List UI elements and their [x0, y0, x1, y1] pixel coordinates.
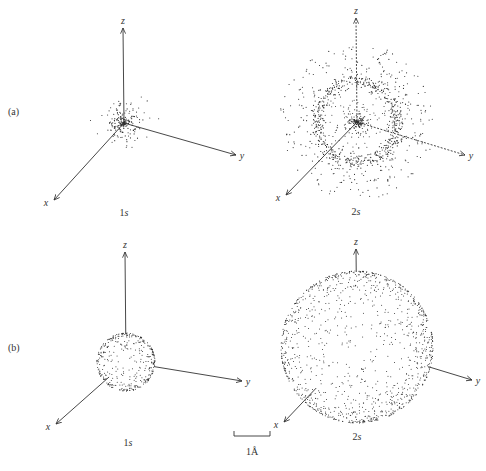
y-axis-label: y — [245, 376, 251, 387]
panel-a-2s: zyx2s — [275, 5, 474, 217]
scale-bar-line — [234, 431, 270, 436]
z-axis-label: z — [353, 236, 358, 247]
panel-a-1s: zyx1s — [43, 15, 245, 218]
orbital-caption: 1s — [124, 437, 133, 448]
panel-b-1s: zyx1s — [45, 239, 251, 448]
scale-bar-label: 1Å — [246, 446, 259, 457]
x-axis-label: x — [273, 419, 279, 430]
scale-bar: 1Å — [234, 431, 270, 457]
x-axis-label: x — [43, 197, 49, 208]
z-axis-arrow — [356, 18, 357, 122]
axes: zyx — [275, 5, 474, 203]
y-axis-label: y — [468, 150, 474, 161]
panel-b-2s: zyx2s — [273, 236, 481, 442]
electron-dots — [97, 333, 156, 392]
orbital-figure: (a) (b) zyx1s zyx2s zyx1s zyx2s 1Å — [0, 0, 486, 471]
electron-dots — [90, 97, 159, 148]
x-axis-label: x — [275, 192, 281, 203]
x-axis-arrow — [284, 388, 316, 422]
y-axis-arrow — [428, 367, 472, 380]
orbital-caption: 2s — [352, 206, 361, 217]
z-axis-label: z — [122, 239, 127, 250]
x-axis-arrow — [54, 123, 124, 200]
y-axis-arrow — [154, 367, 242, 381]
x-axis-arrow — [56, 377, 109, 424]
orbital-caption: 1s — [120, 207, 129, 218]
y-axis-label: y — [239, 150, 245, 161]
y-axis-label: y — [475, 375, 481, 386]
z-axis-label: z — [353, 5, 358, 16]
y-axis-arrow — [124, 123, 236, 155]
axes: zyx — [45, 239, 251, 432]
axes: zyx — [43, 15, 245, 208]
y-axis-arrow — [357, 122, 465, 155]
x-axis-arrow — [286, 122, 357, 195]
z-axis-arrow — [125, 252, 126, 334]
z-axis-arrow — [123, 28, 124, 123]
row-label-a: (a) — [8, 106, 19, 118]
x-axis-label: x — [45, 421, 51, 432]
row-label-b: (b) — [8, 342, 20, 354]
orbital-caption: 2s — [353, 431, 362, 442]
z-axis-label: z — [120, 15, 125, 26]
electron-dots — [281, 271, 434, 424]
